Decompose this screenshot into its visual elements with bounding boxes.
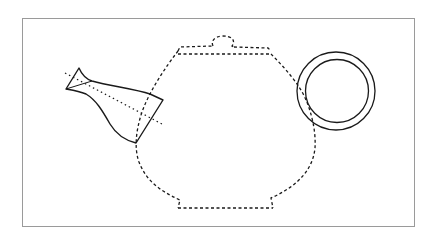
lid-knob — [212, 36, 234, 47]
handle-outer-circle — [297, 52, 375, 130]
ring-handle — [297, 52, 375, 130]
spout-outline — [66, 68, 163, 143]
teapot-body — [136, 36, 315, 208]
spout — [66, 68, 163, 143]
teapot-diagram: teapot construction drawing — [0, 0, 438, 237]
diagram-canvas — [0, 0, 438, 237]
handle-inner-circle — [306, 60, 369, 123]
lid — [178, 46, 271, 54]
body-left-side — [136, 51, 180, 208]
